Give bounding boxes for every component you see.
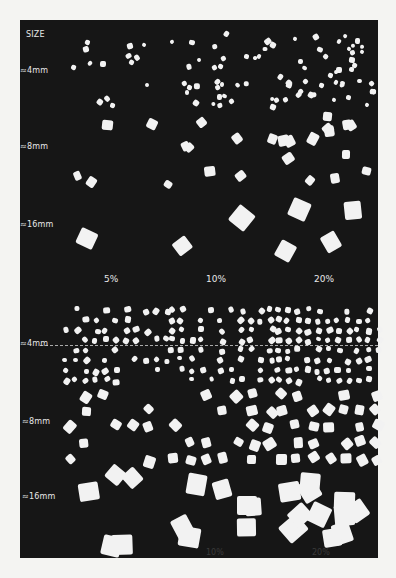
particle [82, 407, 91, 416]
particle [218, 348, 225, 355]
particle [198, 326, 205, 332]
particle [103, 308, 110, 314]
particle [237, 496, 257, 514]
particle [322, 528, 343, 549]
particle [178, 525, 202, 548]
top-size-label-8mm: ≈8mm [20, 142, 48, 151]
particle [348, 56, 355, 62]
bottom-concentration-20: 20% [312, 548, 330, 557]
particle [247, 455, 257, 464]
particle [189, 337, 196, 344]
top-concentration-20: 20% [314, 274, 334, 284]
particle [103, 336, 109, 342]
particle [102, 120, 113, 131]
particle [346, 337, 352, 343]
particle [354, 404, 365, 416]
particle [341, 453, 352, 463]
particle [344, 309, 349, 315]
particle [95, 328, 101, 334]
particle [323, 422, 334, 432]
particle [257, 318, 262, 324]
particle [217, 318, 223, 324]
particle [314, 368, 320, 374]
particle [112, 379, 119, 386]
particle [275, 454, 286, 465]
particle [179, 365, 185, 372]
particle [344, 201, 362, 221]
particle [329, 173, 339, 185]
bottom-concentration-10: 10% [206, 548, 224, 557]
particle [167, 452, 178, 463]
particle [298, 58, 303, 63]
particle [164, 359, 170, 365]
particle [236, 519, 256, 538]
particle [266, 348, 273, 354]
particle [194, 83, 200, 89]
particle [346, 368, 352, 373]
top-size-label-16mm: ≈16mm [20, 220, 53, 229]
particle [155, 367, 161, 372]
particle [375, 346, 381, 353]
particle [78, 481, 100, 502]
particle [275, 337, 282, 343]
particle [341, 119, 352, 130]
particle [357, 79, 362, 84]
particle [144, 82, 149, 87]
particle [295, 317, 302, 324]
bottom-size-label-4mm: ≈4mm [20, 339, 48, 348]
top-concentration-10: 10% [206, 274, 226, 284]
top-size-label-4mm: ≈4mm [20, 66, 48, 75]
particle [324, 318, 330, 324]
top-concentration-5: 5% [104, 274, 118, 284]
particle [168, 347, 174, 353]
particle [269, 357, 275, 364]
particle [356, 319, 362, 325]
particle [311, 92, 317, 97]
particle [333, 504, 355, 526]
particle [294, 437, 304, 448]
particle [285, 367, 292, 374]
particle [79, 438, 89, 448]
particle [204, 165, 216, 176]
particle [178, 347, 184, 353]
particle [334, 367, 340, 373]
particle [154, 336, 160, 342]
particle [365, 366, 371, 372]
particle [185, 90, 190, 95]
particle [84, 368, 90, 373]
bottom-size-label-8mm: ≈8mm [22, 417, 50, 426]
size-header: SIZE [26, 30, 45, 39]
particle [316, 308, 323, 314]
particle [100, 61, 106, 67]
particle [239, 376, 245, 382]
particle [323, 111, 333, 121]
particle [337, 389, 350, 401]
particle [355, 38, 360, 44]
particle [336, 328, 342, 335]
particle [304, 356, 311, 363]
particle [208, 307, 214, 313]
particle [341, 150, 349, 159]
particle [124, 316, 131, 324]
particle [185, 63, 191, 70]
particle [275, 356, 282, 362]
bottom-size-label-16mm: ≈16mm [22, 492, 55, 501]
particle [185, 472, 208, 496]
particle [324, 125, 335, 137]
